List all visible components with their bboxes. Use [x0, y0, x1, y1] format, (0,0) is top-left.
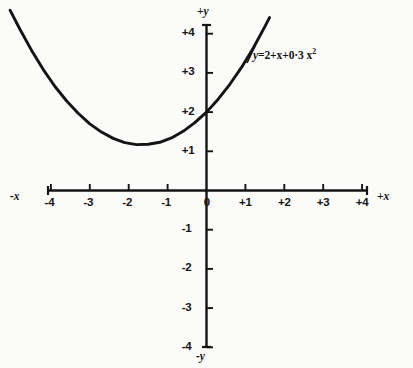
x-tick-label-+2: +2	[278, 196, 291, 208]
x-tick-label--2: -2	[122, 196, 132, 208]
x-tick-label-+4: +4	[356, 196, 369, 208]
plot-area	[0, 0, 413, 368]
equation-label: y=2+x+0·3 x2	[253, 49, 316, 61]
y-axis-negative-label: -y	[196, 350, 205, 362]
y-tick-label--1: -1	[182, 222, 192, 234]
y-tick-label-+4: +4	[182, 26, 195, 38]
x-tick-label-0: 0	[204, 196, 210, 208]
y-tick-label--4: -4	[182, 340, 192, 352]
x-tick-label-+1: +1	[239, 196, 252, 208]
y-axis-positive-label: +y	[197, 5, 209, 17]
x-tick-label--4: -4	[45, 196, 55, 208]
parabola-curve	[10, 10, 269, 144]
x-tick-label--3: -3	[83, 196, 93, 208]
y-tick-label-+2: +2	[182, 105, 195, 117]
x-axis-negative-label: -x	[10, 190, 20, 202]
x-tick-label-+3: +3	[317, 196, 330, 208]
x-axis-positive-label: +x	[377, 190, 389, 202]
x-tick-label--1: -1	[161, 196, 171, 208]
y-tick-label-+1: +1	[182, 144, 195, 156]
figure-canvas: -4-3-2-10+1+2+3+4-4-3-2-1+1+2+3+4 -x +x …	[0, 0, 413, 368]
y-tick-label--3: -3	[182, 301, 192, 313]
equation-rhs: 2+x+0·3 x	[264, 49, 312, 61]
equation-exponent: 2	[312, 47, 316, 56]
y-tick-label--2: -2	[182, 261, 192, 273]
y-tick-label-+3: +3	[182, 65, 195, 77]
